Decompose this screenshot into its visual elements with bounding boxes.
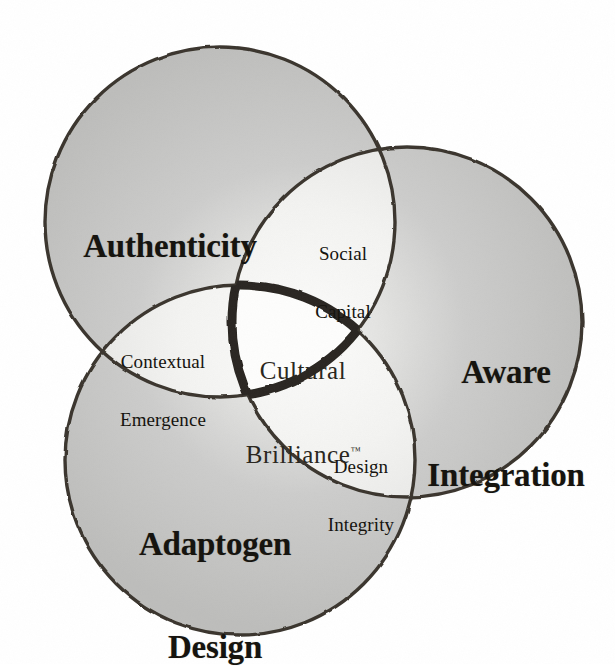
- overlap-label-contextual-emergence-line-1: Contextual: [99, 352, 227, 371]
- set-label-aware-integration: Aware Integration: [406, 286, 606, 561]
- overlap-label-social-capital-line-1: Social: [288, 244, 398, 263]
- set-label-aware-integration-line-1: Aware: [406, 355, 606, 389]
- center-label-line-1: Cultural: [229, 357, 377, 385]
- overlap-label-contextual-emergence: Contextual Emergence: [99, 313, 227, 468]
- set-label-authenticity-line-1: Authenticity: [45, 229, 295, 263]
- trademark-icon: ™: [350, 445, 360, 456]
- center-label-brilliance-text: Brilliance: [246, 441, 351, 468]
- center-label-cultural-brilliance: Cultural Brilliance™: [229, 301, 377, 525]
- center-label-line-2: Brilliance™: [229, 441, 377, 469]
- set-label-adaptogen-design-line-1: Adaptogen: [100, 527, 330, 561]
- set-label-adaptogen-design-line-2: Design: [100, 630, 330, 664]
- overlap-label-contextual-emergence-line-2: Emergence: [99, 410, 227, 429]
- set-label-aware-integration-line-2: Integration: [406, 458, 606, 492]
